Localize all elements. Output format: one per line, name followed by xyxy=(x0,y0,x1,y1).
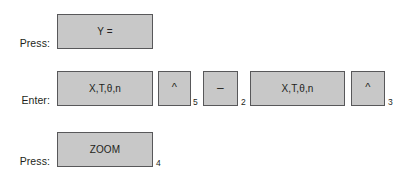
zoom-key-label: ZOOM xyxy=(90,145,121,155)
x-t-theta-n-key-1[interactable]: X,T,θ,n xyxy=(57,71,153,106)
minus-key-label: – xyxy=(217,82,224,94)
x-t-theta-n-key-2[interactable]: X,T,θ,n xyxy=(250,71,345,106)
step-number-4: 4 xyxy=(156,159,161,168)
y-equals-key-label: Y = xyxy=(97,27,113,37)
minus-key[interactable]: – xyxy=(203,71,238,106)
caret-key-2-label: ^ xyxy=(365,82,370,93)
caret-key-1[interactable]: ^ xyxy=(158,71,191,106)
step-number-2: 2 xyxy=(241,98,246,107)
step-number-5: 5 xyxy=(193,98,198,107)
keystroke-instructions: Press: Y = Enter: X,T,θ,n ^ 5 – 2 X,T,θ,… xyxy=(0,0,408,180)
caret-key-1-label: ^ xyxy=(172,82,177,93)
caret-key-2[interactable]: ^ xyxy=(351,71,385,106)
row-label-press-2: Press: xyxy=(0,156,50,167)
zoom-key[interactable]: ZOOM xyxy=(57,132,153,167)
row-label-press-1: Press: xyxy=(0,38,50,49)
row-label-enter: Enter: xyxy=(0,95,50,106)
y-equals-key[interactable]: Y = xyxy=(57,14,153,49)
x-t-theta-n-key-1-label: X,T,θ,n xyxy=(89,84,121,94)
x-t-theta-n-key-2-label: X,T,θ,n xyxy=(281,84,313,94)
step-number-3: 3 xyxy=(388,98,393,107)
